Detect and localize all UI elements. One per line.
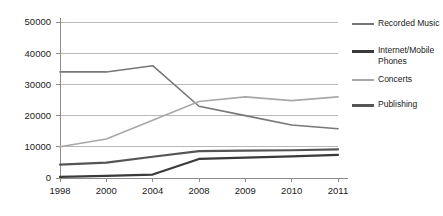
legend-swatch-icon [352,79,374,81]
y-axis-tick-label: 40000 [25,48,51,59]
plot-area: 01000020000300004000050000 1998200020042… [0,0,350,216]
y-axis-tick-label: 20000 [25,110,51,121]
y-axis-tick-labels: 01000020000300004000050000 [25,16,60,183]
legend-item[interactable]: Internet/Mobile Phones [352,45,434,66]
legend-item-label: Internet/Mobile Phones [378,45,434,66]
chart-svg: 01000020000300004000050000 1998200020042… [0,0,350,216]
data-series [60,66,338,177]
series-line [60,97,338,147]
legend-item[interactable]: Concerts [352,74,412,85]
x-axis-tick-label: 2004 [142,185,163,196]
series-line [60,155,338,177]
chart-legend: Recorded MusicInternet/Mobile PhonesConc… [352,0,443,216]
x-axis-tick-label: 2010 [281,185,302,196]
y-axis-tick-label: 50000 [25,16,51,27]
line-chart: 01000020000300004000050000 1998200020042… [0,0,443,216]
legend-swatch-icon [352,23,374,25]
legend-item[interactable]: Recorded Music [352,18,439,29]
legend-item[interactable]: Publishing [352,99,417,110]
x-axis-tick-label: 2011 [328,185,348,196]
x-axis-tick-label: 2000 [96,185,117,196]
y-axis-tick-label: 0 [46,172,51,183]
x-axis-tick-label: 2008 [188,185,209,196]
legend-item-label: Concerts [378,74,412,85]
x-axis-tick-label: 1998 [49,185,70,196]
axis-lines [60,18,348,178]
legend-swatch-icon [352,50,374,53]
legend-item-label: Publishing [378,99,417,110]
series-line [60,66,338,129]
y-axis-tick-label: 30000 [25,79,51,90]
y-axis-tick-label: 10000 [25,141,51,152]
legend-swatch-icon [352,104,374,107]
legend-item-label: Recorded Music [378,18,439,29]
x-axis-tick-label: 2009 [235,185,256,196]
x-axis-tick-labels: 1998200020042008200920102011 [49,178,348,196]
